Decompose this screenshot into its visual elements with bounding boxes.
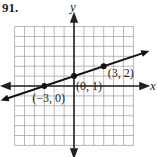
arrow-icon — [141, 50, 150, 57]
arrow-icon — [1, 95, 10, 102]
point-label: (3, 2) — [108, 66, 134, 80]
data-point — [101, 63, 107, 69]
x-axis-label: x — [149, 78, 156, 93]
data-point — [41, 83, 47, 89]
point-label: (−3, 0) — [32, 91, 65, 105]
y-axis-label: y — [68, 0, 76, 14]
point-label: (0, 1) — [76, 79, 102, 93]
plot-line: (−3, 0)(0, 1)(3, 2) — [1, 50, 150, 105]
coordinate-graph: x y (−3, 0)(0, 1)(3, 2) — [0, 0, 157, 157]
